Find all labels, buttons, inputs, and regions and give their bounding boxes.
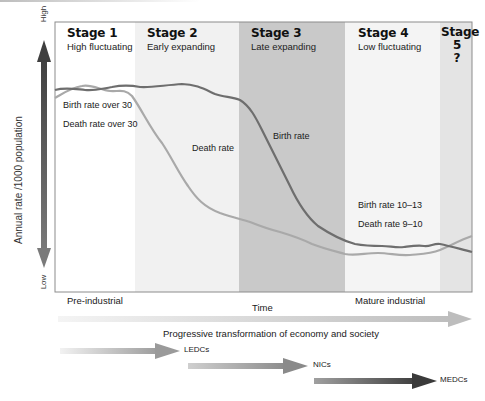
stage-1-title: Stage 1 [67, 26, 117, 40]
y-axis-arrow [37, 40, 51, 268]
stage-3-band [239, 22, 345, 292]
stage-1-band [55, 22, 135, 292]
birth-rate-over-30-label: Birth rate over 30 [63, 100, 132, 110]
ledcs-label: LEDCs [184, 345, 209, 354]
stage-4-subtitle: Low fluctuating [358, 41, 421, 52]
birth-rate-range-label: Birth rate 10–13 [358, 200, 422, 210]
stage-5-title: Stage 5 ? [441, 26, 473, 65]
stage-bands [55, 22, 472, 292]
stage-4-band [345, 22, 440, 292]
transformation-label: Progressive transformation of economy an… [163, 328, 379, 339]
ledcs-arrow [60, 343, 180, 359]
x-axis-start-label: Pre-industrial [67, 295, 123, 306]
x-axis-end-label: Mature industrial [355, 295, 425, 306]
stage-5-title-line3: ? [441, 52, 473, 65]
stage-2-band [135, 22, 239, 292]
nics-arrow [188, 358, 308, 374]
nics-label: NICs [313, 360, 331, 369]
medcs-arrow [314, 373, 437, 389]
medcs-label: MEDCs [440, 375, 468, 384]
stage-4-title: Stage 4 [358, 26, 408, 40]
y-axis-low-label: Low [36, 270, 50, 294]
x-axis-title: Time [252, 302, 273, 313]
death-rate-range-label: Death rate 9–10 [358, 219, 423, 229]
stage-2-title: Stage 2 [147, 26, 197, 40]
time-arrow [58, 311, 472, 327]
y-axis-title: Annual rate /1000 population [8, 110, 28, 250]
death-rate-label: Death rate [192, 143, 234, 153]
death-rate-over-30-label: Death rate over 30 [63, 119, 138, 129]
y-axis-high-label: High [36, 2, 50, 26]
birth-rate-label: Birth rate [273, 131, 310, 141]
stage-2-subtitle: Early expanding [147, 41, 215, 52]
stage-1-subtitle: High fluctuating [67, 41, 132, 52]
stage-3-subtitle: Late expanding [251, 41, 316, 52]
stage-3-title: Stage 3 [251, 26, 301, 40]
